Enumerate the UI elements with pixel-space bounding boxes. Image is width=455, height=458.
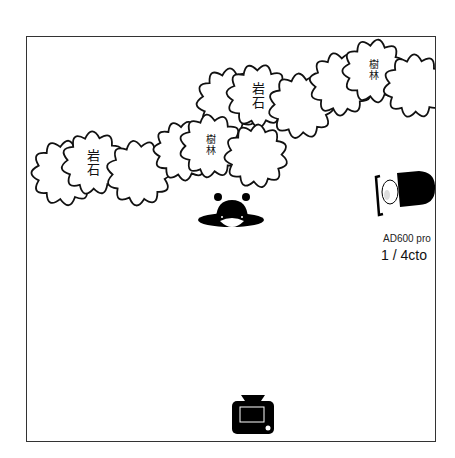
diagram-frame: 岩石樹林岩石樹林 AD600 pro 1 / 4cto: [26, 36, 436, 442]
camera: [27, 37, 436, 442]
camera-icon: [232, 395, 274, 434]
